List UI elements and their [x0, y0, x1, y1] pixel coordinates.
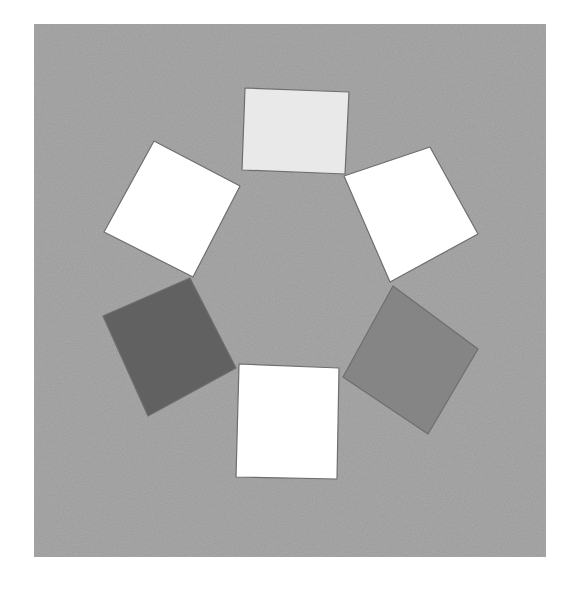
- color-swatch-figure: [0, 0, 573, 591]
- square-top: [242, 88, 349, 174]
- square-bottom: [236, 364, 339, 479]
